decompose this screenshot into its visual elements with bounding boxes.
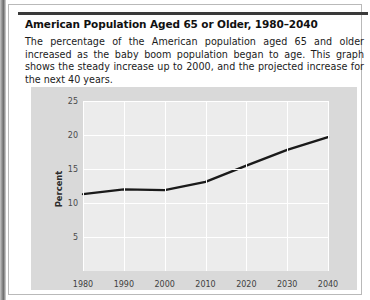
y-axis-tick-label: 20 [68,131,78,140]
page-edge-shadow [0,0,6,300]
x-axis-tick-label: 2020 [236,280,256,289]
page-title: American Population Aged 65 or Older, 19… [25,18,355,30]
plot-area: 5101520251980199020002010202020302040 [83,101,328,271]
y-axis-tick-label: 10 [68,199,78,208]
x-axis-tick-label: 1990 [114,280,134,289]
x-axis-tick-label: 2030 [277,280,297,289]
x-axis-tick-label: 1980 [73,280,93,289]
y-axis-tick-label: 25 [68,97,78,106]
figure-page: American Population Aged 65 or Older, 19… [0,0,370,300]
y-axis-label: Percent [54,170,64,207]
gridline-vertical [165,101,166,271]
x-axis-tick-label: 2040 [318,280,338,289]
gridline-vertical [287,101,288,271]
gridline-vertical [328,101,329,271]
title-rule [18,12,368,15]
chart-panel: Percent 51015202519801990200020102020203… [31,87,357,290]
gridline-vertical [206,101,207,271]
gridline-vertical [83,101,84,271]
caption-text: The percentage of the American populatio… [25,36,364,86]
figure-frame: American Population Aged 65 or Older, 19… [8,4,362,295]
gridline-vertical [124,101,125,271]
y-axis-tick-label: 5 [73,233,78,242]
y-axis-tick-label: 15 [68,165,78,174]
caption-paragraph: The percentage of the American populatio… [25,36,364,86]
gridline-vertical [246,101,247,271]
x-axis-tick-label: 2010 [195,280,215,289]
x-axis-tick-label: 2000 [154,280,174,289]
